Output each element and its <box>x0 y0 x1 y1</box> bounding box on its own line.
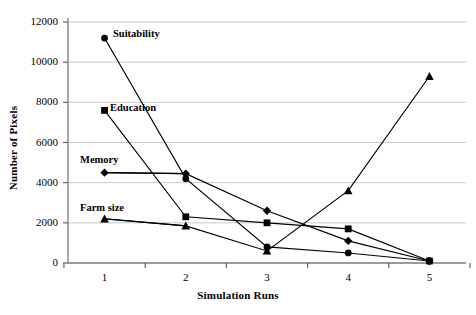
gridlines <box>68 22 466 223</box>
data-point-circle <box>101 35 108 42</box>
y-axis-tick-label: 6000 <box>0 137 58 148</box>
series-label-education: Education <box>110 102 156 113</box>
data-point-square <box>101 107 108 114</box>
data-point-triangle <box>425 72 434 80</box>
data-point-diamond <box>263 207 271 215</box>
data-point-diamond <box>182 169 190 177</box>
series-label-memory: Memory <box>80 154 118 165</box>
x-axis-title: Simulation Runs <box>0 289 476 301</box>
plot-area <box>0 0 476 315</box>
x-axis-tick-label: 5 <box>417 272 441 283</box>
series-line <box>105 110 430 261</box>
x-axis-tick-label: 1 <box>93 272 117 283</box>
y-axis-tick-label: 10000 <box>0 56 58 67</box>
line-chart: Number of Pixels Simulation Runs 0200040… <box>0 0 476 315</box>
data-point-square <box>264 219 271 226</box>
x-axis-tick-label: 4 <box>336 272 360 283</box>
data-point-triangle <box>100 215 109 223</box>
series-farm-size <box>100 72 433 255</box>
y-axis-tick-label: 12000 <box>0 16 58 27</box>
y-axis-tick-label: 2000 <box>0 217 58 228</box>
series-label-farm-size: Farm size <box>80 202 124 213</box>
data-point-triangle <box>344 186 353 194</box>
data-point-square <box>345 225 352 232</box>
data-point-diamond <box>100 168 108 176</box>
data-point-square <box>182 213 189 220</box>
data-point-diamond <box>344 237 352 245</box>
x-axis-tick-label: 3 <box>255 272 279 283</box>
series-label-suitability: Suitability <box>113 28 160 39</box>
y-axis-tick-label: 8000 <box>0 96 58 107</box>
y-axis-tick-label: 0 <box>0 257 58 268</box>
y-axis-tick-label: 4000 <box>0 177 58 188</box>
x-axis-tick-label: 2 <box>174 272 198 283</box>
series-line <box>105 38 430 261</box>
data-point-circle <box>345 250 352 257</box>
series-suitability <box>101 35 433 265</box>
series-education <box>101 107 433 264</box>
data-series <box>100 35 433 266</box>
label-leader-lines <box>105 173 186 226</box>
